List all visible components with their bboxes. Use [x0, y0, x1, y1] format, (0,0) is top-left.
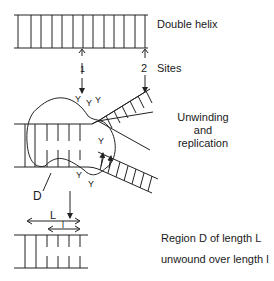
sites-label: Sites — [157, 62, 182, 74]
region-d-label: D — [33, 189, 42, 203]
protein-icon: Y — [76, 170, 82, 180]
length-l-label: l — [62, 220, 64, 230]
site-2-label: 2 — [141, 62, 147, 74]
region-d-pointer — [43, 173, 51, 191]
protein-icon: Y — [98, 136, 104, 146]
protein-glyphs: Y Y Y Y Y Y — [75, 94, 104, 189]
length-L-label: L — [50, 209, 56, 221]
unwinding-label-1: Unwinding — [177, 111, 228, 123]
top-double-helix — [14, 15, 148, 48]
site-1-label: 1 — [80, 64, 85, 74]
protein-icon: Y — [86, 98, 92, 108]
unwinding-label-3: replication — [178, 137, 228, 149]
replication-diagram: Double helix 1 2 Sites — [0, 0, 274, 281]
protein-icon: Y — [75, 94, 81, 104]
region-desc-2: unwound over length l — [161, 253, 269, 265]
protein-icon: Y — [88, 179, 94, 189]
protein-icon: Y — [95, 95, 101, 105]
bottom-helix — [14, 235, 88, 268]
region-desc-1: Region D of length L — [161, 232, 261, 244]
double-helix-label: Double helix — [157, 18, 218, 30]
top-helix-rungs — [18, 15, 145, 48]
unwinding-label-2: and — [194, 124, 212, 136]
